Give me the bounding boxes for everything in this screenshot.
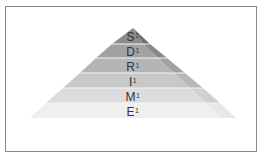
level-label-r: R1 (113, 61, 153, 73)
level-label-m: M1 (113, 91, 153, 103)
level-label-s: S1 (113, 31, 153, 43)
level-label-d: D1 (113, 46, 153, 58)
level-label-e: E1 (113, 106, 153, 118)
level-label-i: I1 (113, 76, 153, 88)
